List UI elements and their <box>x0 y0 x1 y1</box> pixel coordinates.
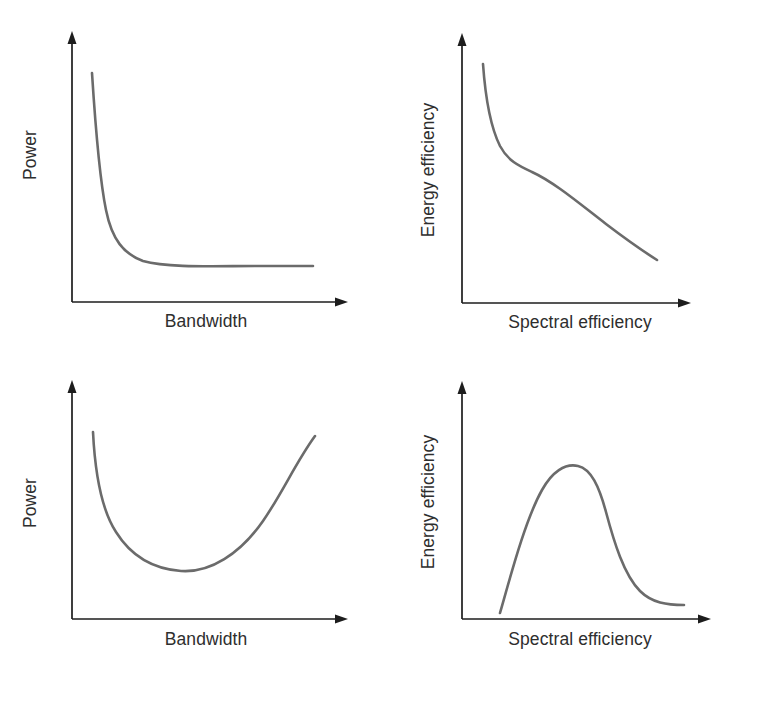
data-curve <box>92 73 313 266</box>
y-axis-label: Energy efficiency <box>418 103 438 238</box>
chart-panel-bottom-left: Bandwidth Power <box>0 364 384 727</box>
chart-panel-bottom-right: Spectral efficiency Energy efficiency <box>384 364 768 727</box>
y-axis-arrow-icon <box>68 380 77 393</box>
data-curve <box>93 432 315 571</box>
chart-svg-bottom-left: Bandwidth Power <box>0 364 384 727</box>
chart-panel-top-left: Bandwidth Power <box>0 0 384 363</box>
x-axis-arrow-icon <box>335 615 348 624</box>
y-axis-label: Power <box>20 130 40 180</box>
data-curve <box>500 465 684 613</box>
chart-svg-bottom-right: Spectral efficiency Energy efficiency <box>384 364 768 727</box>
x-axis-label: Bandwidth <box>165 311 248 331</box>
x-axis-arrow-icon <box>335 298 348 307</box>
data-curve <box>483 64 657 260</box>
x-axis-label: Spectral efficiency <box>508 629 652 649</box>
x-axis-arrow-icon <box>698 615 711 624</box>
y-axis-arrow-icon <box>68 31 77 44</box>
y-axis-arrow-icon <box>458 381 467 394</box>
chart-svg-top-left: Bandwidth Power <box>0 0 384 363</box>
y-axis-arrow-icon <box>458 33 467 46</box>
chart-svg-top-right: Spectral efficiency Energy efficiency <box>384 0 768 363</box>
figure-grid: Bandwidth Power Spectral efficiency Ener… <box>0 0 768 727</box>
x-axis-arrow-icon <box>678 299 691 308</box>
x-axis-label: Bandwidth <box>165 629 248 649</box>
y-axis-label: Power <box>20 478 40 528</box>
chart-panel-top-right: Spectral efficiency Energy efficiency <box>384 0 768 363</box>
x-axis-label: Spectral efficiency <box>508 312 652 332</box>
y-axis-label: Energy efficiency <box>418 435 438 570</box>
